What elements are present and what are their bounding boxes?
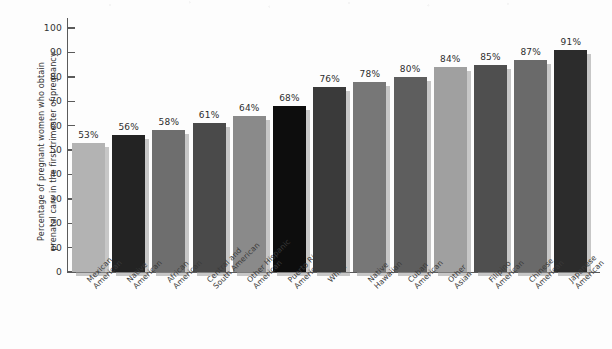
bar-13: 91% xyxy=(554,50,587,272)
bar-10: 84% xyxy=(434,67,467,272)
bar-body xyxy=(554,50,587,272)
bar-body xyxy=(193,123,226,272)
bar-value-label: 91% xyxy=(561,37,582,47)
bar-value-label: 53% xyxy=(78,130,99,140)
bar-value-label: 76% xyxy=(319,74,340,84)
bar-body xyxy=(353,82,386,272)
prenatal-care-bar-chart: Percentage of pregnant women who obtain … xyxy=(0,0,612,349)
bar-body xyxy=(514,60,547,272)
bar-value-label: 61% xyxy=(199,110,220,120)
bar-value-label: 58% xyxy=(159,117,180,127)
bar-value-label: 80% xyxy=(400,64,421,74)
bar-value-label: 87% xyxy=(520,47,541,57)
bar-value-label: 56% xyxy=(118,122,139,132)
bars-layer: 53%56%58%61%64%68%76%78%80%84%85%87%91% xyxy=(0,0,612,349)
bar-11: 85% xyxy=(474,65,507,272)
bar-value-label: 64% xyxy=(239,103,260,113)
bar-4: 61% xyxy=(193,123,226,272)
bar-value-label: 84% xyxy=(440,54,461,64)
bar-body xyxy=(474,65,507,272)
bar-2: 56% xyxy=(112,135,145,272)
bar-body xyxy=(394,77,427,272)
bar-1: 53% xyxy=(72,143,105,272)
bar-3: 58% xyxy=(152,130,185,272)
bar-body xyxy=(152,130,185,272)
bar-8: 78% xyxy=(353,82,386,272)
bar-body xyxy=(72,143,105,272)
bar-9: 80% xyxy=(394,77,427,272)
bar-value-label: 78% xyxy=(360,69,381,79)
bar-body xyxy=(112,135,145,272)
bar-value-label: 68% xyxy=(279,93,300,103)
bar-body xyxy=(434,67,467,272)
bar-12: 87% xyxy=(514,60,547,272)
bar-value-label: 85% xyxy=(480,52,501,62)
